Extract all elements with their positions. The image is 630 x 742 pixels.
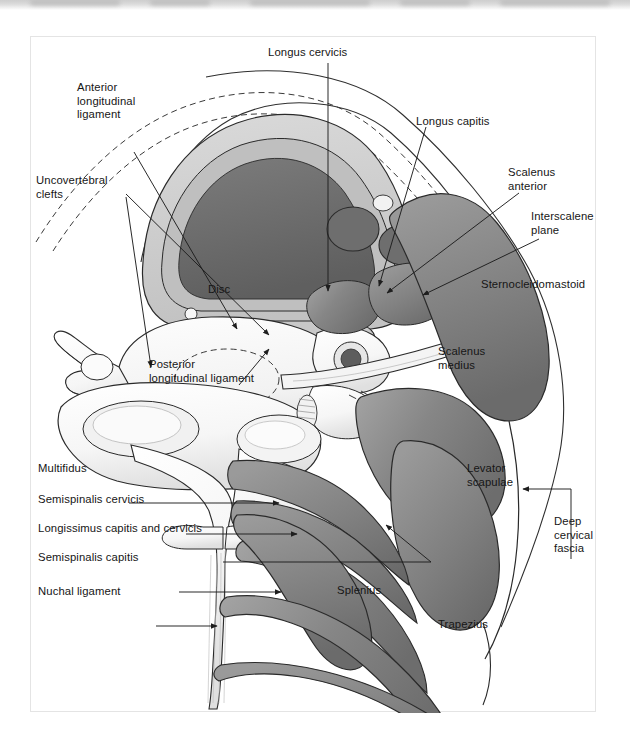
label-nuchal-ligament: Nuchal ligament [38,585,121,599]
label-deep-cervical-fascia: Deepcervicalfascia [554,515,593,556]
label-levator-scapulae: Levatorscapulae [467,462,513,489]
label-multifidus: Multifidus [38,462,87,476]
label-anterior-longitudinal-ligament: Anteriorlongitudinalligament [77,81,135,122]
cervical-cross-section-illustration [31,37,597,713]
label-interscalene-plane: Interscaleneplane [531,210,594,237]
label-scalenus-anterior: Scalenusanterior [508,166,555,193]
label-semispinalis-capitis: Semispinalis capitis [38,551,139,565]
label-longus-capitis: Longus capitis [416,115,490,129]
figure-panel: Longus cervicis Anteriorlongitudinalliga… [30,36,596,712]
label-scalenus-medius: Scalenusmedius [438,345,485,372]
label-longissimus-capitis-and-cervicis: Longissimus capitis and cervicis [38,522,202,536]
label-uncovertebral-clefts: Uncovertebralclefts [36,174,108,201]
label-disc: Disc [208,283,230,297]
label-trapezius: Trapezius [438,618,488,632]
scan-top-artifact-band [0,0,630,10]
label-longus-cervicis: Longus cervicis [268,46,347,60]
label-sternocleidomastoid: Sternocleidomastoid [481,278,585,292]
label-semispinalis-cervicis: Semispinalis cervicis [38,493,144,507]
label-posterior-longitudinal-ligament: Posteriorlongitudinal ligament [149,358,254,385]
label-splenius: Splenius [337,584,381,598]
left-transverse-foramen [81,354,113,380]
